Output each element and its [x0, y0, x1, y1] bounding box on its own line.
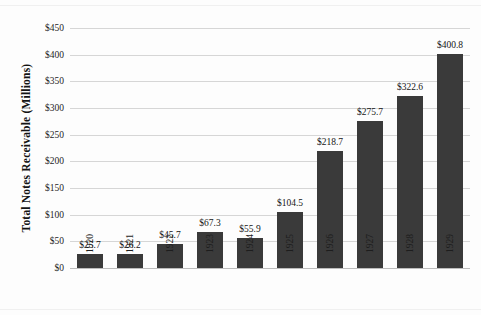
- x-tick-group: 1921: [110, 268, 150, 315]
- x-axis-tick-label: 1926: [325, 234, 335, 274]
- x-tick-group: 1924: [230, 268, 270, 315]
- x-axis-tick-label: 1923: [205, 234, 215, 274]
- bar-group: $275.7: [350, 28, 390, 268]
- x-tick-group: 1922: [150, 268, 190, 315]
- x-axis-tick-label: 1929: [445, 234, 455, 274]
- bar-value-label: $400.8: [423, 40, 477, 51]
- x-tick-group: 1927: [350, 268, 390, 315]
- x-tick-group: 1920: [70, 268, 110, 315]
- y-axis-tick-label: $350: [6, 76, 64, 86]
- bar-group: $322.6: [390, 28, 430, 268]
- x-axis-tick-label: 1925: [285, 234, 295, 274]
- x-tick-group: 1928: [390, 268, 430, 315]
- y-axis-tick-label: $400: [6, 50, 64, 60]
- y-axis-tick-label: $250: [6, 130, 64, 140]
- y-axis-tick-label: $50: [6, 236, 64, 246]
- bar-group: $400.8: [430, 28, 470, 268]
- bar-group: $45.7: [150, 28, 190, 268]
- x-axis-tick-label: 1921: [125, 234, 135, 274]
- y-axis-tick-label: $150: [6, 183, 64, 193]
- x-axis-tick-label: 1928: [405, 234, 415, 274]
- bar-value-label: $322.6: [383, 82, 437, 93]
- y-axis-tick-label: $100: [6, 210, 64, 220]
- bar-value-label: $104.5: [263, 198, 317, 209]
- y-axis-tick-labels: $0$50$100$150$200$250$300$350$400$450: [0, 0, 64, 315]
- y-axis-tick-label: $0: [6, 263, 64, 273]
- y-axis-tick-label: $200: [6, 156, 64, 166]
- scan-artifact-line: [0, 5, 481, 6]
- x-tick-group: 1929: [430, 268, 470, 315]
- bar-chart: Total Notes Receivable (Millions) $0$50$…: [0, 0, 481, 315]
- bar-value-label: $218.7: [303, 137, 357, 148]
- x-tick-group: 1923: [190, 268, 230, 315]
- x-tick-group: 1926: [310, 268, 350, 315]
- bar-value-label: $275.7: [343, 107, 397, 118]
- plot-area: $25.7$26.2$45.7$67.3$55.9$104.5$218.7$27…: [70, 28, 470, 268]
- y-axis-tick-label: $300: [6, 103, 64, 113]
- x-axis-tick-label: 1922: [165, 234, 175, 274]
- bar-group: $55.9: [230, 28, 270, 268]
- bar-group: $218.7: [310, 28, 350, 268]
- x-axis-tick-labels: 1920192119221923192419251926192719281929: [70, 268, 470, 315]
- y-axis-tick-label: $450: [6, 23, 64, 33]
- x-axis-tick-label: 1924: [245, 234, 255, 274]
- x-axis-tick-label: 1920: [85, 234, 95, 274]
- bar-group: $25.7: [70, 28, 110, 268]
- x-axis-tick-label: 1927: [365, 234, 375, 274]
- x-tick-group: 1925: [270, 268, 310, 315]
